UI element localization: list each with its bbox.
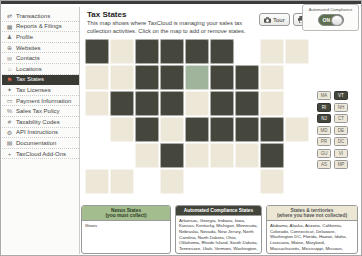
map-state-FL[interactable] [260, 169, 284, 194]
map-state-PA[interactable] [260, 65, 284, 90]
map-state-TX[interactable] [160, 169, 184, 194]
map-state-AZ[interactable] [110, 117, 134, 142]
legend-noncollect-subtitle: (where you have not collected) [269, 213, 355, 219]
sidebar-item-profile[interactable]: ♟Profile [2, 32, 79, 43]
map-state-UT[interactable] [135, 117, 159, 142]
sidebar-item-locations[interactable]: ⌂Locations [2, 64, 79, 75]
map-state-box-DC[interactable]: DC [334, 137, 348, 146]
sidebar-item-api-instructions[interactable]: ⚙API Instructions [2, 128, 79, 139]
map-state-ND[interactable] [135, 39, 159, 64]
automated-compliance-toggle[interactable]: ON [318, 14, 344, 26]
legend-nexus-header: Nexus States (you must collect) [82, 206, 170, 221]
sidebar-item-taxcloud-add-ons[interactable]: +TaxCloud Add-Ons [2, 149, 79, 160]
sidebar-item-label: Profile [16, 34, 33, 40]
map-state-IN[interactable] [210, 65, 234, 90]
map-state-NE[interactable] [160, 91, 184, 116]
map-state-ID[interactable] [110, 65, 134, 90]
map-state-CA[interactable] [85, 91, 109, 116]
sidebar-item-sales-tax-policy[interactable]: %Sales Tax Policy [2, 106, 79, 117]
map-state-WA[interactable] [85, 39, 109, 64]
profile-icon: ♟ [6, 33, 13, 40]
map-state-NV[interactable] [110, 91, 134, 116]
map-state-box-MD[interactable]: MD [317, 126, 331, 135]
map-state-AR[interactable] [210, 117, 234, 142]
map-state-HI[interactable] [110, 169, 134, 194]
map-state-IL[interactable] [185, 65, 209, 90]
sidebar-item-websites[interactable]: ⊕Websites [2, 43, 79, 54]
map-state-box-NJ[interactable]: NJ [317, 114, 331, 123]
map-state-box-GU[interactable]: GU [317, 149, 331, 158]
map-state-SD[interactable] [135, 65, 159, 90]
map-state-MS[interactable] [210, 143, 234, 168]
legend-noncollect-list: Alabama, Alaska, Arizona, California, Co… [267, 221, 357, 254]
sidebar-item-transactions[interactable]: ⇄Transactions [2, 11, 79, 22]
sidebar-item-payment-information[interactable]: ▭Payment Information [2, 96, 79, 107]
map-state-WY[interactable] [135, 91, 159, 116]
map-state-WV[interactable] [235, 91, 259, 116]
sidebar-item-contacts[interactable]: ✉Contacts [2, 53, 79, 64]
tour-button-label: Tour [273, 17, 285, 23]
sidebar-item-label: Contacts [16, 55, 40, 61]
map-state-AL[interactable] [235, 143, 259, 168]
map-state-box-MP[interactable]: MP [334, 160, 348, 169]
sidebar-item-taxability-codes[interactable]: #Taxability Codes [2, 117, 79, 128]
map-state-KS[interactable] [185, 117, 209, 142]
sidebar-item-tax-licenses[interactable]: ✦Tax Licenses [2, 85, 79, 96]
sidebar-item-label: Sales Tax Policy [16, 108, 60, 114]
legend: Nexus States (you must collect) Illinois… [81, 205, 358, 254]
map-state-box-DE[interactable]: DE [334, 126, 348, 135]
map-state-MT[interactable] [110, 39, 134, 64]
map-state-box-VT[interactable]: VT [334, 91, 348, 100]
map-state-VA[interactable] [260, 91, 284, 116]
map-state-LA[interactable] [185, 143, 209, 168]
map-state-IA[interactable] [160, 65, 184, 90]
map-state-KY[interactable] [210, 91, 234, 116]
map-state-ME[interactable] [285, 39, 309, 64]
map-state-OH[interactable] [235, 65, 259, 90]
map-state-MI[interactable] [210, 39, 234, 64]
map-state-AK[interactable] [85, 169, 109, 194]
legend-compliance-box: Automated Compliance States Arkansas, Ge… [175, 205, 262, 254]
legend-compliance-header: Automated Compliance States [176, 206, 261, 216]
sidebar-item-label: Transactions [16, 13, 50, 19]
map-state-NY[interactable] [260, 39, 284, 64]
map-state-SC[interactable] [285, 117, 309, 142]
map-state-MN[interactable] [160, 39, 184, 64]
sidebar-item-documentation[interactable]: ▤Documentation [2, 138, 79, 149]
us-tax-states-map: MARINJMDPRGUASVTNHCTDEDCVIMP [85, 39, 359, 199]
map-state-GA[interactable] [260, 143, 284, 168]
map-state-OR[interactable] [85, 65, 109, 90]
map-state-CO[interactable] [160, 117, 184, 142]
map-state-box-AS[interactable]: AS [317, 160, 331, 169]
sidebar-item-reports-filings[interactable]: ▦Reports & Filings [2, 22, 79, 33]
sidebar: ⇄Transactions▦Reports & Filings♟Profile⊕… [2, 7, 80, 254]
map-state-box-CT[interactable]: CT [334, 114, 348, 123]
locations-icon: ⌂ [6, 66, 13, 72]
tax-licenses-icon: ✦ [6, 86, 13, 93]
legend-nexus-subtitle: (you must collect) [84, 213, 168, 219]
map-state-TN[interactable] [235, 117, 259, 142]
map-state-box-NH[interactable]: NH [334, 103, 348, 112]
map-state-box-VI[interactable]: VI [334, 149, 348, 158]
map-state-box-MA[interactable]: MA [317, 91, 331, 100]
map-state-box-PR[interactable]: PR [317, 137, 331, 146]
documentation-icon: ▤ [6, 139, 13, 146]
map-state-box-RI[interactable]: RI [317, 103, 331, 112]
taxability-codes-icon: # [6, 119, 13, 125]
map-state-NC[interactable] [260, 117, 284, 142]
sidebar-item-label: TaxCloud Add-Ons [16, 151, 66, 157]
sidebar-list: ⇄Transactions▦Reports & Filings♟Profile⊕… [2, 11, 79, 159]
sidebar-item-label: Taxability Codes [16, 119, 60, 125]
page-description: This map shows where TaxCloud is managin… [87, 20, 259, 35]
map-state-MO[interactable] [185, 91, 209, 116]
sidebar-item-tax-states[interactable]: ⚑Tax States [2, 75, 79, 86]
tour-button[interactable]: Tour [259, 13, 290, 26]
map-state-OK[interactable] [160, 143, 184, 168]
map-state-WI[interactable] [185, 39, 209, 64]
toggle-knob-icon[interactable] [331, 15, 343, 26]
camera-icon [264, 17, 271, 23]
map-state-NM[interactable] [135, 143, 159, 168]
sidebar-item-label: Tax States [16, 76, 44, 82]
sales-tax-policy-icon: % [6, 108, 13, 114]
legend-compliance-list: Arkansas, Georgia, Indiana, Iowa, Kansas… [176, 216, 261, 254]
